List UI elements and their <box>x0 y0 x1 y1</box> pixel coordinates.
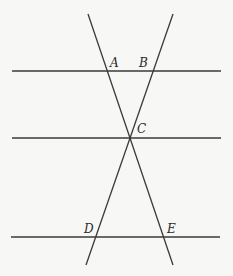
point-label-d: D <box>83 222 94 236</box>
geometry-diagram: A B C D E <box>0 0 233 276</box>
point-label-e: E <box>166 222 176 236</box>
point-label-b: B <box>138 56 148 70</box>
point-label-c: C <box>137 122 146 136</box>
point-label-a: A <box>109 56 119 70</box>
